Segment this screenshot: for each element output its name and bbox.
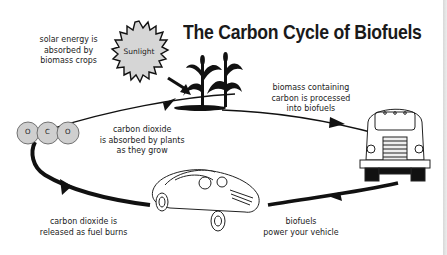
atom-c: C (45, 128, 50, 136)
sunlight-label: Sunlight (113, 47, 165, 56)
diagram-title: The Carbon Cycle of Biofuels (183, 20, 422, 44)
arrowhead-icon (163, 98, 176, 111)
arrow-crops-to-truck (222, 110, 382, 135)
arrowhead-icon (60, 179, 72, 195)
atom-o-left: O (25, 128, 31, 136)
arrowhead-icon (329, 117, 345, 128)
label-solar-energy: solar energy is absorbed by biomass crop… (40, 34, 98, 66)
right-edge-border (443, 0, 447, 255)
arrow-truck-to-car (268, 183, 398, 205)
label-biomass-processed: biomass containing carbon is processed i… (271, 82, 350, 114)
corn-plants-icon (174, 52, 243, 111)
label-co2-absorbed: carbon dioxide is absorbed by plants as … (100, 124, 185, 156)
label-biofuels-power: biofuels power your vehicle (263, 216, 338, 237)
carbon-cycle-diagram: The Carbon Cycle of Biofuels Sunlight O … (0, 0, 447, 255)
tanker-truck-icon (360, 109, 430, 181)
convertible-car-icon (152, 170, 259, 231)
label-co2-released: carbon dioxide is released as fuel burns (40, 216, 127, 237)
atom-o-right: O (65, 128, 71, 136)
